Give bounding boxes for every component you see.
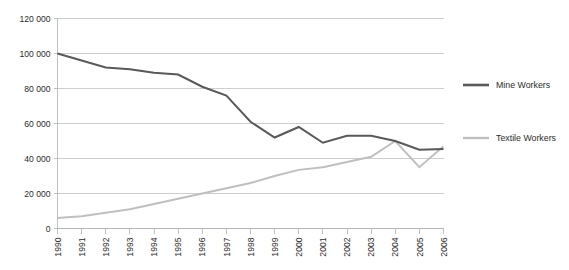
gridlines (58, 19, 444, 229)
x-tick-label-1990: 1990 (53, 237, 63, 256)
chart-canvas: 020 00040 00060 00080 000100 000120 000 … (0, 0, 569, 270)
x-tick-label-1996: 1996 (197, 237, 207, 256)
x-tick-label-2001: 2001 (318, 237, 328, 256)
y-tick-label-40000: 40 000 (24, 154, 51, 164)
y-tick-label-120000: 120 000 (19, 14, 50, 24)
x-axis-tick-labels: 1990199119921993199419951996199719981999… (53, 237, 449, 256)
series-line-textile-workers (58, 141, 444, 218)
x-tick-label-2003: 2003 (366, 237, 376, 256)
y-tick-label-0: 0 (46, 224, 51, 234)
series-line-mine-workers (58, 54, 444, 150)
x-tick-label-1997: 1997 (222, 237, 232, 256)
y-tick-label-60000: 60 000 (24, 119, 51, 129)
x-tick-label-1991: 1991 (77, 237, 87, 256)
legend-label-textile-workers: Textile Workers (496, 133, 557, 143)
x-tick-label-2004: 2004 (390, 237, 400, 256)
x-tick-label-2006: 2006 (439, 237, 449, 256)
x-tick-label-1993: 1993 (125, 237, 135, 256)
x-tick-label-2002: 2002 (342, 237, 352, 256)
x-tick-label-1995: 1995 (173, 237, 183, 256)
y-tick-label-80000: 80 000 (24, 84, 51, 94)
x-tick-label-2000: 2000 (294, 237, 304, 256)
y-tick-label-20000: 20 000 (24, 189, 51, 199)
x-tick-label-1994: 1994 (149, 237, 159, 256)
x-tick-label-2005: 2005 (415, 237, 425, 256)
y-tick-label-100000: 100 000 (19, 49, 50, 59)
chart-legend: Mine WorkersTextile Workers (463, 80, 557, 143)
x-tick-label-1992: 1992 (101, 237, 111, 256)
y-axis-tick-labels: 020 00040 00060 00080 000100 000120 000 (19, 14, 57, 234)
legend-label-mine-workers: Mine Workers (496, 80, 551, 90)
x-tick-label-1998: 1998 (246, 237, 256, 256)
x-tick-label-1999: 1999 (270, 237, 280, 256)
x-axis-tick-marks (58, 229, 444, 234)
line-chart: 020 00040 00060 00080 000100 000120 000 … (0, 0, 569, 270)
